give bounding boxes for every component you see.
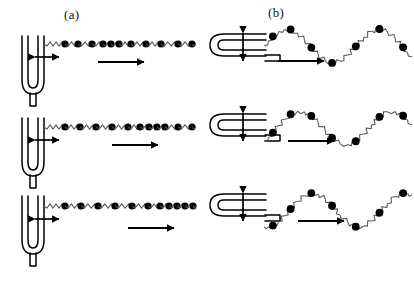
bead <box>269 129 277 137</box>
bead <box>307 44 315 52</box>
spring-segment <box>264 137 268 141</box>
bead <box>287 26 295 34</box>
bead <box>269 222 277 230</box>
spring-segment <box>364 31 372 37</box>
bead <box>376 209 384 217</box>
spring-segment <box>298 111 305 113</box>
bead <box>328 59 336 67</box>
tuning-fork-icon-a-0 <box>22 36 44 106</box>
bead <box>287 110 295 118</box>
spring-segment <box>340 144 348 147</box>
bead <box>352 223 360 231</box>
tuning-fork-icon-a-1 <box>22 118 44 188</box>
bead <box>376 113 384 121</box>
spring-segment <box>408 52 412 56</box>
spring-segment <box>264 227 268 229</box>
spring-segment <box>387 196 395 203</box>
spring-segment <box>279 119 285 125</box>
bead <box>352 137 360 145</box>
bead <box>269 32 277 40</box>
panel-label-b: (b) <box>268 5 284 21</box>
bead <box>399 189 407 197</box>
spring-segment <box>340 55 348 61</box>
spring-segment <box>264 41 268 46</box>
panel-label-a: (a) <box>64 7 79 23</box>
bead <box>352 42 360 50</box>
spring-segment <box>408 120 412 125</box>
spring-segment <box>298 196 305 202</box>
spring-segment <box>408 193 412 196</box>
spring-segment <box>318 123 325 131</box>
bead <box>376 25 384 33</box>
spring-segment <box>318 55 325 61</box>
figure-canvas <box>0 0 414 287</box>
spring-segment <box>364 221 372 226</box>
spring-segment <box>318 194 325 199</box>
spring-segment <box>298 33 305 39</box>
spring-segment <box>364 125 372 134</box>
bead <box>399 112 407 120</box>
spring-segment <box>387 111 395 113</box>
wave-propagation-figure: (a) (b) <box>0 0 414 287</box>
spring-segment <box>387 32 395 39</box>
spring-segment <box>279 29 285 32</box>
bead <box>328 202 336 210</box>
bead <box>307 189 315 197</box>
bead <box>287 205 295 213</box>
tuning-fork-icon-b-2 <box>210 194 280 221</box>
bead <box>307 112 315 120</box>
bead <box>399 43 407 51</box>
tuning-fork-icon-a-2 <box>22 196 44 266</box>
